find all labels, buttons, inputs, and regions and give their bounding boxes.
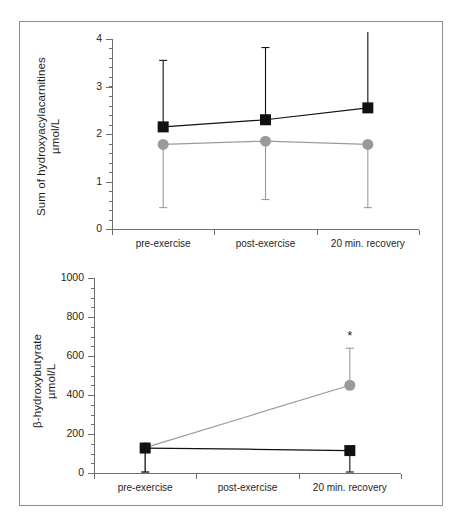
y-axis-tick-label: 0 — [62, 222, 102, 234]
series-line — [145, 385, 350, 447]
y-axis-title-top-line1: Sum of hydroxyacylacarnitines — [35, 29, 49, 244]
data-marker-square — [158, 121, 169, 132]
y-axis-tick-label: 1000 — [44, 271, 84, 283]
significance-annotation: * — [340, 329, 360, 342]
data-marker-circle — [362, 139, 373, 150]
data-marker-square — [140, 443, 151, 454]
chart-panel-hydroxyacylcarnitines: Sum of hydroxyacylacarnitines µmol/L 012… — [19, 21, 443, 266]
series-black-square-series — [140, 443, 356, 472]
y-axis-tick-label: 800 — [44, 310, 84, 322]
series-black-square-series — [158, 32, 374, 133]
y-axis-tick-label: 600 — [44, 349, 84, 361]
data-marker-square — [362, 102, 373, 113]
series-gray-circle-series — [158, 136, 374, 208]
plot-area-top: 01234pre-exercisepost-exercise20 min. re… — [112, 39, 419, 229]
y-axis-tick-label: 2 — [62, 127, 102, 139]
data-marker-circle — [158, 139, 169, 150]
plot-area-bottom: 02004006008001000pre-exercisepost-exerci… — [94, 278, 401, 473]
figure-root: Sum of hydroxyacylacarnitines µmol/L 012… — [0, 0, 459, 529]
series-layer — [94, 278, 431, 503]
data-marker-square — [260, 114, 271, 125]
series-layer — [112, 39, 449, 259]
series-line — [145, 448, 350, 451]
y-axis-tick-label: 400 — [44, 388, 84, 400]
y-axis-tick-label: 3 — [62, 80, 102, 92]
y-axis-title-top-line2: µmol/L — [49, 29, 63, 244]
data-marker-square — [344, 445, 355, 456]
y-axis-tick-label: 0 — [44, 466, 84, 478]
y-axis-title-bottom-line1: β-hydroxybutyrate — [31, 286, 45, 476]
series-gray-circle-series — [140, 348, 356, 472]
chart-panel-hydroxybutyrate: β-hydroxybutyrate µmol/L 020040060080010… — [19, 266, 443, 506]
y-axis-tick-label: 1 — [62, 175, 102, 187]
y-axis-tick-label: 200 — [44, 427, 84, 439]
data-marker-circle — [260, 136, 271, 147]
data-marker-circle — [344, 380, 355, 391]
y-axis-tick-label: 4 — [62, 32, 102, 44]
